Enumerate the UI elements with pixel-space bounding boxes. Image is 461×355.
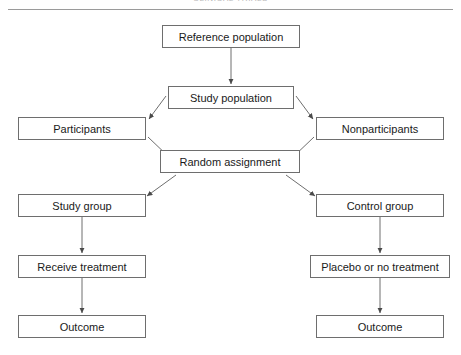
node-study-population[interactable]: Study population xyxy=(168,86,294,109)
node-label: Outcome xyxy=(358,321,403,333)
node-label: Study population xyxy=(190,92,272,104)
diagram-page: CLINICAL TRIALS Reference population Stu… xyxy=(0,0,461,355)
node-label: Outcome xyxy=(60,321,105,333)
arrow-random-to-control-group xyxy=(286,175,315,196)
node-study-group[interactable]: Study group xyxy=(18,194,146,217)
node-outcome-control[interactable]: Outcome xyxy=(316,315,444,338)
node-placebo-or-no-treatment[interactable]: Placebo or no treatment xyxy=(310,255,450,278)
node-reference-population[interactable]: Reference population xyxy=(162,25,300,48)
node-label: Control group xyxy=(347,200,414,212)
arrow-study-to-nonparticipants xyxy=(296,96,313,119)
node-control-group[interactable]: Control group xyxy=(316,194,444,217)
node-random-assignment[interactable]: Random assignment xyxy=(160,150,300,173)
node-label: Receive treatment xyxy=(37,261,126,273)
node-label: Participants xyxy=(53,123,110,135)
node-outcome-study[interactable]: Outcome xyxy=(18,315,146,338)
node-nonparticipants[interactable]: Nonparticipants xyxy=(316,117,444,140)
node-label: Random assignment xyxy=(180,156,281,168)
arrow-layer xyxy=(0,0,461,355)
arrow-study-to-participants xyxy=(149,96,166,119)
arrow-random-to-study-group xyxy=(147,175,176,196)
node-label: Placebo or no treatment xyxy=(321,261,438,273)
node-receive-treatment[interactable]: Receive treatment xyxy=(18,255,146,278)
node-label: Nonparticipants xyxy=(342,123,418,135)
node-label: Reference population xyxy=(179,31,284,43)
node-label: Study group xyxy=(52,200,111,212)
node-participants[interactable]: Participants xyxy=(18,117,146,140)
